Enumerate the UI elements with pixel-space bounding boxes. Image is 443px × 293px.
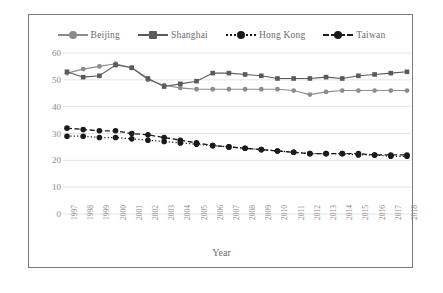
x-axis-tick: 2015 [361, 205, 370, 220]
x-axis-tick: 1998 [86, 205, 95, 220]
x-axis-title: Year [29, 247, 414, 258]
x-axis-tick: 2001 [135, 205, 144, 220]
x-axis-tick: 2005 [200, 205, 209, 220]
x-axis-tick: 2002 [151, 205, 160, 220]
x-axis-tick: 2016 [378, 205, 387, 220]
x-axis-tick: 1997 [70, 205, 79, 220]
x-axis-tick-labels: 1997199819992000200120022003200420052006… [29, 15, 414, 269]
x-axis-tick: 2010 [280, 205, 289, 220]
x-axis-tick: 1999 [102, 205, 111, 220]
x-axis-tick: 2012 [313, 205, 322, 220]
plot-area: 0102030405060 19971998199920002001200220… [29, 15, 414, 269]
x-axis-tick: 2018 [410, 205, 419, 220]
x-axis-tick: 2000 [119, 205, 128, 220]
x-axis-tick: 2008 [248, 205, 257, 220]
x-axis-tick: 2009 [264, 205, 273, 220]
x-axis-tick: 2017 [394, 205, 403, 220]
x-axis-tick: 2014 [345, 205, 354, 220]
x-axis-tick: 2004 [183, 205, 192, 220]
x-axis-tick: 2006 [216, 205, 225, 220]
x-axis-tick: 2011 [297, 205, 306, 220]
x-axis-tick: 2007 [232, 205, 241, 220]
x-axis-tick: 2003 [167, 205, 176, 220]
chart-figure: Beijing Shanghai Hong Kong Taiwan 0 [28, 14, 413, 268]
x-axis-tick: 2013 [329, 205, 338, 220]
